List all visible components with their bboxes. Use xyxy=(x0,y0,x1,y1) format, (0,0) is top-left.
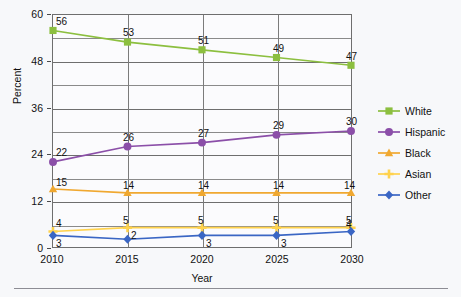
x-axis-tick-label: 2020 xyxy=(179,253,225,265)
data-point-label: 14 xyxy=(123,181,134,191)
data-point-label: 27 xyxy=(198,129,209,139)
y-axis-tick-mark xyxy=(47,248,51,249)
series-marker xyxy=(198,139,206,147)
data-point-label: 14 xyxy=(273,181,284,191)
y-axis-tick-mark xyxy=(47,154,51,155)
legend-item-label: Black xyxy=(405,147,431,159)
legend-marker-icon xyxy=(377,167,401,181)
data-point-label: 3 xyxy=(56,239,62,249)
data-point-label: 47 xyxy=(346,52,357,62)
y-axis-tick-mark xyxy=(47,61,51,62)
y-axis-tick-label: 24 xyxy=(13,149,43,159)
y-axis-tick-mark xyxy=(47,108,51,109)
x-axis-tick-label: 2030 xyxy=(329,253,375,265)
series-marker xyxy=(198,231,206,240)
legend-item-white[interactable]: White xyxy=(377,100,457,121)
y-axis-tick-label: 48 xyxy=(13,56,43,66)
x-axis-tick-label: 2015 xyxy=(104,253,150,265)
data-point-label: 14 xyxy=(198,181,209,191)
legend-marker-icon xyxy=(377,125,401,139)
data-point-label: 53 xyxy=(123,28,134,38)
legend-item-black[interactable]: Black xyxy=(377,142,457,163)
series-marker xyxy=(273,131,281,139)
x-axis-tick-label: 2010 xyxy=(29,253,75,265)
chart-figure: Percent 0122436486020102015202020252030 … xyxy=(0,0,461,297)
y-axis-title: Percent xyxy=(11,68,23,104)
legend-marker-icon xyxy=(377,188,401,202)
data-point-label: 26 xyxy=(123,133,134,143)
legend-item-label: Hispanic xyxy=(405,126,445,138)
series-marker xyxy=(198,46,205,53)
data-point-label: 4 xyxy=(56,219,62,229)
chart-legend: WhiteHispanicBlackAsianOther xyxy=(377,100,457,205)
data-point-label: 49 xyxy=(273,44,284,54)
data-point-label: 3 xyxy=(206,239,212,249)
series-marker xyxy=(347,62,354,69)
y-axis-tick-label: 60 xyxy=(13,9,43,19)
data-point-label: 29 xyxy=(273,121,284,131)
data-point-label: 5 xyxy=(198,216,204,226)
series-marker xyxy=(347,127,355,135)
data-point-label: 5 xyxy=(273,216,279,226)
y-axis-tick-label: 12 xyxy=(13,196,43,206)
series-marker xyxy=(273,54,280,61)
data-point-label: 3 xyxy=(281,239,287,249)
data-point-label: 4 xyxy=(346,220,352,230)
series-marker xyxy=(124,143,132,151)
series-marker xyxy=(124,38,131,45)
legend-item-asian[interactable]: Asian xyxy=(377,163,457,184)
data-point-label: 15 xyxy=(56,178,67,188)
legend-marker-icon xyxy=(377,146,401,160)
series-marker xyxy=(49,27,56,34)
legend-marker-icon xyxy=(377,104,401,118)
legend-item-other[interactable]: Other xyxy=(377,184,457,205)
data-point-label: 5 xyxy=(123,216,129,226)
data-point-label: 14 xyxy=(344,181,355,191)
series-white xyxy=(49,27,354,69)
legend-item-label: Asian xyxy=(405,168,431,180)
data-point-label: 51 xyxy=(198,36,209,46)
y-axis-tick-mark xyxy=(47,14,51,15)
data-point-label: 22 xyxy=(56,148,67,158)
x-axis-title: Year xyxy=(0,272,404,284)
legend-item-hispanic[interactable]: Hispanic xyxy=(377,121,457,142)
data-point-label: 56 xyxy=(56,17,67,27)
bottom-divider xyxy=(14,288,448,289)
series-marker xyxy=(272,231,280,240)
y-axis-tick-label: 36 xyxy=(13,103,43,113)
x-axis-tick-label: 2025 xyxy=(254,253,300,265)
y-axis-tick-mark xyxy=(47,201,51,202)
data-point-label: 2 xyxy=(131,231,137,241)
y-axis-tick-label: 0 xyxy=(13,243,43,253)
legend-item-label: White xyxy=(405,105,432,117)
series-marker xyxy=(49,158,57,166)
legend-item-label: Other xyxy=(405,189,431,201)
data-point-label: 30 xyxy=(346,117,357,127)
